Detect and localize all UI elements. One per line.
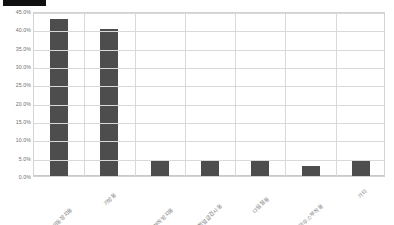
- y-axis-tick-label: 10.0%: [0, 137, 31, 143]
- bar[interactable]: [352, 161, 370, 176]
- x-axis-tick-label: 다림질용: [251, 195, 271, 215]
- y-axis-tick-label: 20.0%: [0, 101, 31, 107]
- gridline-horizontal: [34, 13, 384, 14]
- bar[interactable]: [251, 161, 269, 176]
- y-axis: 0.0%5.0%10.0%15.0%20.0%25.0%30.0%35.0%40…: [0, 0, 31, 190]
- y-axis-tick-label: 35.0%: [0, 46, 31, 52]
- bar[interactable]: [50, 19, 68, 176]
- x-axis-tick-label: 마우스부착용: [297, 202, 325, 225]
- gridline-vertical: [84, 13, 85, 176]
- y-axis-tick-label: 0.0%: [0, 174, 31, 180]
- gridline-horizontal: [34, 31, 384, 32]
- x-axis-tick-label: 커서이동장치용: [43, 206, 74, 225]
- gridline-vertical: [135, 13, 136, 176]
- y-axis-tick-label: 15.0%: [0, 119, 31, 125]
- gridline-horizontal: [34, 86, 384, 87]
- bar[interactable]: [151, 161, 169, 176]
- bar[interactable]: [100, 29, 118, 176]
- gridline-horizontal: [34, 50, 384, 51]
- x-axis-tick-label: 기타: [356, 187, 369, 200]
- bar-chart: 0.0%5.0%10.0%15.0%20.0%25.0%30.0%35.0%40…: [0, 0, 394, 225]
- y-axis-tick-label: 45.0%: [0, 9, 31, 15]
- bar[interactable]: [201, 161, 219, 176]
- y-axis-tick-label: 30.0%: [0, 64, 31, 70]
- plot-area: [33, 12, 385, 177]
- gridline-horizontal: [34, 105, 384, 106]
- bars-layer: [34, 13, 384, 176]
- gridline-vertical: [285, 13, 286, 176]
- gridline-horizontal: [34, 160, 384, 161]
- x-axis-tick-label: 잉크부착방지용: [144, 206, 175, 225]
- x-axis-tick-label: 가방용: [102, 191, 119, 208]
- gridline-vertical: [235, 13, 236, 176]
- gridline-horizontal: [34, 123, 384, 124]
- y-axis-tick-label: 5.0%: [0, 156, 31, 162]
- y-axis-tick-label: 25.0%: [0, 82, 31, 88]
- gridline-horizontal: [34, 68, 384, 69]
- y-axis-tick-label: 40.0%: [0, 27, 31, 33]
- x-axis-labels: 커서이동장치용가방용잉크부착방지용정밀급검사용다림질용마우스부착용기타: [33, 178, 385, 225]
- gridline-vertical: [185, 13, 186, 176]
- x-axis-tick-label: 정밀급검사용: [196, 202, 224, 225]
- gridline-vertical: [336, 13, 337, 176]
- bar[interactable]: [302, 166, 320, 176]
- gridline-horizontal: [34, 141, 384, 142]
